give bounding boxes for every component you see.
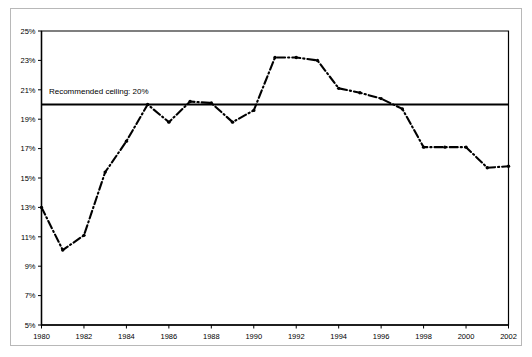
data-point-marker — [401, 107, 404, 110]
y-axis-tick-label: 19% — [20, 115, 35, 124]
data-point-marker — [379, 97, 382, 100]
y-axis-tick-label: 9% — [25, 262, 36, 271]
data-point-marker — [231, 120, 234, 123]
y-axis-tick-label: 13% — [20, 203, 35, 212]
x-axis-tick-labels: 1980198219841986198819901992199419961998… — [33, 332, 517, 341]
data-point-marker — [188, 100, 191, 103]
data-point-markers — [40, 56, 510, 252]
y-axis-tick-label: 21% — [20, 86, 35, 95]
y-axis-tick-label: 7% — [25, 291, 36, 300]
data-point-marker — [210, 101, 213, 104]
data-point-marker — [295, 56, 298, 59]
x-axis-tick-label: 1996 — [373, 332, 390, 341]
x-axis-tick-label: 1986 — [161, 332, 178, 341]
y-axis-tick-label: 23% — [20, 56, 35, 65]
plot-area-border — [42, 31, 509, 325]
y-axis-tick-label: 17% — [20, 144, 35, 153]
line-chart-plot: 5%7%9%11%13%15%17%19%21%23%25% 198019821… — [0, 0, 532, 357]
y-axis-tick-label: 15% — [20, 174, 35, 183]
data-point-marker — [252, 109, 255, 112]
data-point-marker — [337, 87, 340, 90]
x-axis-tick-label: 1998 — [415, 332, 432, 341]
data-point-marker — [422, 145, 425, 148]
x-axis-tick-label: 1990 — [245, 332, 262, 341]
data-point-marker — [146, 103, 149, 106]
data-point-marker — [103, 170, 106, 173]
data-point-marker — [167, 120, 170, 123]
x-axis-tick-label: 2002 — [500, 332, 517, 341]
x-axis-tick-label: 1992 — [288, 332, 305, 341]
x-axis-tick-label: 2000 — [458, 332, 475, 341]
data-point-marker — [61, 248, 64, 251]
x-axis-tick-label: 1984 — [118, 332, 135, 341]
y-axis-tick-label: 25% — [20, 27, 35, 36]
data-point-marker — [273, 56, 276, 59]
y-axis-tick-label: 5% — [25, 321, 36, 330]
data-point-marker — [125, 140, 128, 143]
x-axis-tick-label: 1994 — [330, 332, 347, 341]
data-point-marker — [486, 166, 489, 169]
x-axis-tick-label: 1988 — [203, 332, 220, 341]
data-point-marker — [358, 91, 361, 94]
y-axis-tick-label: 11% — [21, 233, 36, 242]
data-point-marker — [316, 59, 319, 62]
data-point-marker — [464, 145, 467, 148]
ceiling-annotation-text: Recommended ceiling: 20% — [49, 87, 149, 96]
data-point-marker — [82, 234, 85, 237]
data-point-marker — [507, 165, 510, 168]
y-axis-tick-labels: 5%7%9%11%13%15%17%19%21%23%25% — [20, 27, 35, 330]
x-axis-tick-label: 1980 — [33, 332, 50, 341]
recommended-ceiling-label: Recommended ceiling: 20% — [49, 87, 149, 96]
data-point-marker — [443, 145, 446, 148]
x-axis-tick-label: 1982 — [76, 332, 93, 341]
chart-figure: 5%7%9%11%13%15%17%19%21%23%25% 198019821… — [0, 0, 532, 357]
data-point-marker — [40, 206, 43, 209]
